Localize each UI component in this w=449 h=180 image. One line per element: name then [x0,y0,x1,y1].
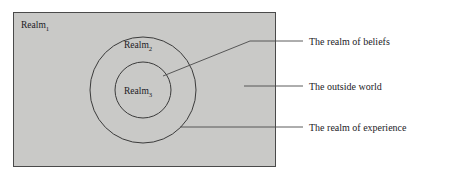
diagram-canvas: Realm1 Realm2 Realm3 The realm of belief… [0,0,449,180]
legend-label-experience: The realm of experience [309,122,407,133]
legend-label-beliefs: The realm of beliefs [309,36,390,47]
realm3-label: Realm3 [124,86,153,98]
realm1-label: Realm1 [21,20,49,32]
realm2-label-text: Realm [124,40,149,50]
realm3-label-subscript: 3 [149,91,153,98]
realm1-label-subscript: 1 [46,25,49,32]
realm1-label-text: Realm [21,20,46,30]
realms-diagram: Realm1 Realm2 Realm3 The realm of belief… [0,0,449,180]
realm2-label: Realm2 [124,40,153,52]
realm2-label-subscript: 2 [149,45,153,52]
realm3-label-text: Realm [124,86,149,96]
legend-label-outside-world: The outside world [309,81,382,92]
